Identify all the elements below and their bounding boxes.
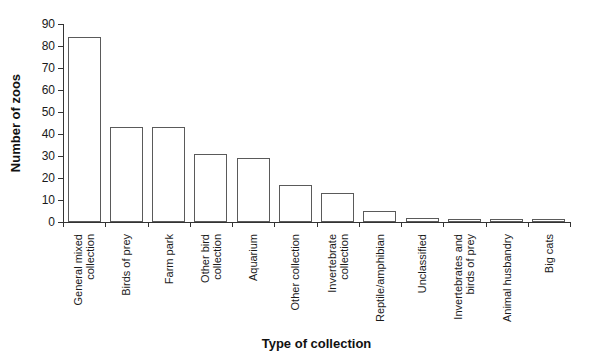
y-tick-label: 60 (23, 83, 55, 97)
bar (194, 154, 227, 222)
x-category-label: Aquarium (236, 234, 270, 334)
y-tick (58, 178, 63, 179)
x-category-label-text: Invertebrate collection (326, 234, 351, 334)
bar (321, 193, 354, 222)
bar (448, 219, 481, 222)
x-category-label: Farm park (152, 234, 186, 334)
x-category-label-text: Unclassified (416, 234, 429, 334)
y-tick (58, 200, 63, 201)
bar (68, 37, 101, 222)
bar (532, 219, 565, 222)
y-tick-label: 80 (23, 39, 55, 53)
x-category-label-text: General mixed collection (72, 234, 97, 334)
x-tick (528, 223, 529, 227)
x-category-label: Other collection (278, 234, 312, 334)
x-category-label-text: Invertebrates and birds of prey (452, 234, 477, 334)
x-tick (232, 223, 233, 227)
y-tick (58, 156, 63, 157)
bar (110, 127, 143, 222)
y-tick-label: 70 (23, 61, 55, 75)
x-category-label: Birds of prey (109, 234, 143, 334)
y-tick (58, 46, 63, 47)
y-tick (58, 68, 63, 69)
x-tick (190, 223, 191, 227)
x-category-label-text: Other bird collection (199, 234, 224, 334)
x-category-label: Animal husbandry (490, 234, 524, 334)
x-category-label-text: Aquarium (247, 234, 260, 334)
x-tick (105, 223, 106, 227)
bar (237, 158, 270, 222)
x-tick (317, 223, 318, 227)
bar (152, 127, 185, 222)
x-category-label: Big cats (532, 234, 566, 334)
x-tick (359, 223, 360, 227)
bar (363, 211, 396, 222)
x-category-label: Other bird collection (194, 234, 228, 334)
x-category-label: Unclassified (405, 234, 439, 334)
y-tick (58, 134, 63, 135)
x-category-label-text: Birds of prey (120, 234, 133, 334)
x-tick (443, 223, 444, 227)
x-category-label-text: Other collection (289, 234, 302, 334)
x-tick (570, 223, 571, 227)
y-tick (58, 112, 63, 113)
y-tick-label: 90 (23, 17, 55, 31)
y-tick (58, 24, 63, 25)
x-tick (486, 223, 487, 227)
x-tick (274, 223, 275, 227)
x-category-label: Reptile/amphibian (363, 234, 397, 334)
y-tick-label: 20 (23, 171, 55, 185)
x-category-label: General mixed collection (67, 234, 101, 334)
bar (279, 185, 312, 222)
x-category-label-text: Farm park (163, 234, 176, 334)
x-category-label-text: Animal husbandry (501, 234, 514, 334)
y-tick-label: 10 (23, 193, 55, 207)
bar (490, 219, 523, 222)
bar (406, 218, 439, 222)
x-tick (148, 223, 149, 227)
x-category-label: Invertebrates and birds of prey (447, 234, 481, 334)
x-category-label-text: Big cats (543, 234, 556, 334)
bar-chart-figure: Number of zoos Type of collection 010203… (0, 0, 602, 354)
y-tick-label: 0 (23, 215, 55, 229)
y-tick-label: 40 (23, 127, 55, 141)
y-tick-label: 50 (23, 105, 55, 119)
x-category-label: Invertebrate collection (321, 234, 355, 334)
x-tick (401, 223, 402, 227)
x-category-label-text: Reptile/amphibian (374, 234, 387, 334)
x-tick (63, 223, 64, 227)
y-tick-label: 30 (23, 149, 55, 163)
y-tick (58, 90, 63, 91)
x-axis-title: Type of collection (63, 336, 570, 351)
